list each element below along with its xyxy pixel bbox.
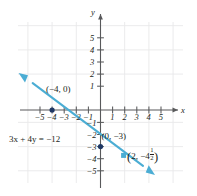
y-tick-label-4: 4: [90, 46, 94, 55]
x-tick-label-5: 5: [159, 113, 163, 122]
x-tick-label-3: 3: [135, 113, 139, 122]
x-tick-label-1: 1: [110, 113, 114, 122]
x-tick-label-neg3: −3: [59, 113, 69, 122]
x-axis-label: x: [181, 106, 185, 115]
graph-figure: x y −5 −4 −3 −2 −1 1 2 3 4 5 5 4 3 2 1 −…: [0, 0, 197, 196]
x-tick-label-neg5: −5: [35, 113, 45, 122]
coordinate-plane: [0, 0, 197, 196]
x-axis-arrow: [173, 108, 179, 113]
x-tick-label-2: 2: [122, 113, 126, 122]
y-tick-label-5: 5: [90, 34, 94, 43]
point-label-y-intercept: (0, −3): [102, 132, 127, 141]
y-tick-label-neg4: −4: [87, 155, 97, 164]
x-tick-label-neg2: −2: [71, 113, 81, 122]
point-marker-extra: [121, 153, 126, 158]
y-tick-label-neg3: −3: [87, 143, 97, 152]
x-tick-label-4: 4: [147, 113, 151, 122]
point-label-extra-coords: 2, −4: [131, 151, 150, 161]
equation-label: 3x + 4y = −12: [9, 135, 60, 144]
y-axis-arrow: [98, 14, 103, 20]
point-label-extra-close-paren: ): [154, 150, 158, 164]
y-tick-label-2: 2: [90, 70, 94, 79]
y-tick-label-neg2: −2: [87, 131, 97, 140]
point-label-extra: (2, −412): [127, 147, 158, 163]
x-tick-label-neg4: −4: [47, 113, 57, 122]
point-marker-intercept-y: [98, 144, 103, 149]
y-axis-label: y: [91, 8, 95, 17]
y-tick-label-3: 3: [90, 58, 94, 67]
y-tick-label-neg1: −1: [87, 119, 97, 128]
axis-arrowheads: [98, 14, 178, 112]
point-label-x-intercept: (−4, 0): [46, 85, 71, 94]
line-arrow-lower-right: [146, 165, 155, 175]
y-tick-label-neg5: −5: [87, 167, 97, 176]
y-tick-label-1: 1: [90, 82, 94, 91]
